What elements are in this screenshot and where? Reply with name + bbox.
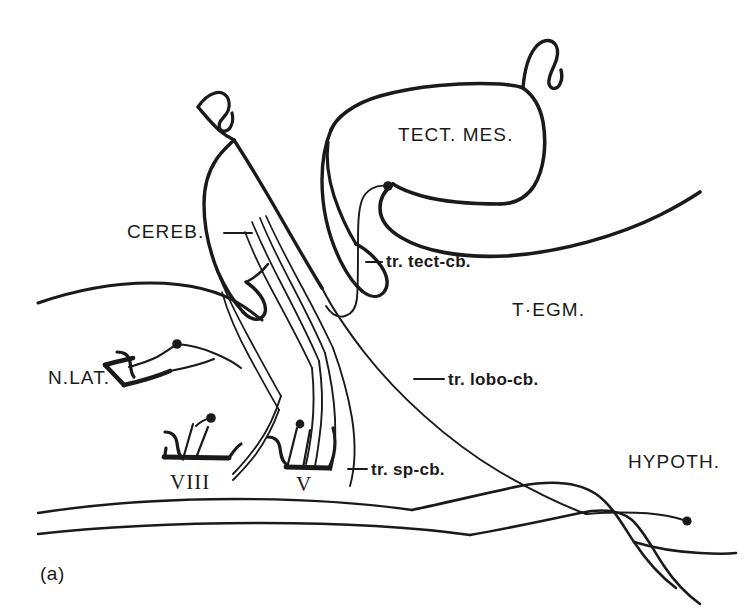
- n-lat-tract: [129, 339, 241, 371]
- cerebellar-fiber-bundle: [216, 216, 333, 410]
- outer-brain-contours: [38, 283, 736, 604]
- label-tegm: T·EGM.: [512, 300, 585, 319]
- label-nerve-viii: VIII: [170, 472, 210, 493]
- label-cereb: CEREB.: [127, 222, 204, 241]
- valvula-cerebelli-loop: [322, 130, 387, 296]
- label-tr-lobo-cb: tr. lobo-cb.: [448, 371, 538, 388]
- cerebellum-outline: [198, 92, 322, 319]
- label-tect-mes: TECT. MES.: [398, 125, 514, 144]
- label-tr-sp-cb: tr. sp-cb.: [371, 461, 445, 478]
- nucleus-lateralis-bracket: [105, 352, 170, 385]
- label-nerve-v: V: [296, 474, 312, 495]
- nerve-v-terminal-dot: [296, 420, 305, 429]
- anatomical-figure-panel: CEREB. TECT. MES. T·EGM. HYPOTH. N.LAT. …: [0, 0, 752, 616]
- panel-label: (a): [40, 564, 65, 583]
- label-hypoth: HYPOTH.: [628, 452, 720, 471]
- nerve-viii-bracket: [164, 413, 241, 459]
- nerve-v-bracket: [268, 420, 335, 468]
- brain-section-line-drawing: [0, 0, 752, 616]
- label-tr-tect-cb: tr. tect-cb.: [386, 253, 471, 270]
- label-n-lat: N.LAT.: [48, 368, 110, 387]
- tectum-mesencephali-outline: [331, 41, 700, 257]
